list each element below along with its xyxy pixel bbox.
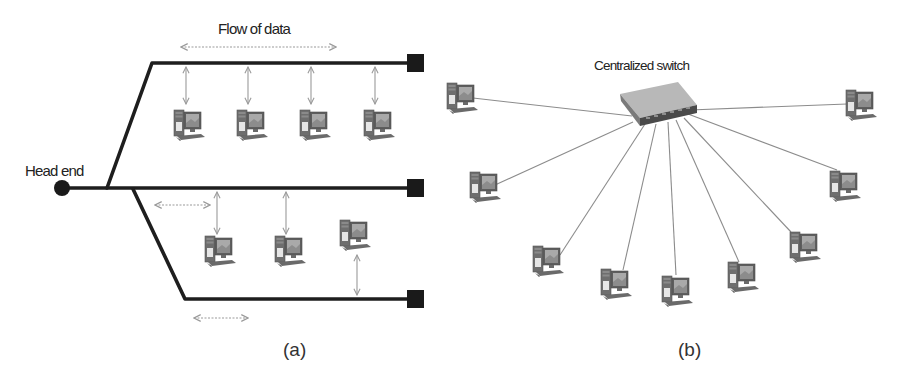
- flow-of-data-label: Flow of data: [218, 20, 290, 37]
- panel-b-star-topology: [447, 82, 877, 307]
- panel-a-bus-topology: [54, 47, 424, 318]
- pc-icon: [237, 110, 268, 141]
- pc-icon: [790, 232, 821, 263]
- pc-icon: [205, 236, 236, 267]
- network-topology-figure: Flow of data Head end (a) Centralized sw…: [0, 0, 899, 380]
- middle-terminator-icon: [407, 179, 424, 197]
- pc-icon: [470, 172, 501, 203]
- pc-icon: [364, 110, 395, 141]
- pc-icon: [447, 83, 478, 114]
- panel-a-caption: (a): [283, 339, 306, 361]
- pc-icon: [601, 269, 632, 300]
- bottom-terminator-icon: [407, 290, 424, 308]
- top-terminator-icon: [407, 54, 424, 72]
- pc-icon: [830, 171, 861, 202]
- head-end-label: Head end: [25, 162, 84, 179]
- pc-icon: [846, 90, 877, 121]
- pc-icon: [340, 220, 371, 251]
- figure-canvas: [0, 0, 899, 380]
- pc-icon: [275, 236, 306, 267]
- pc-icon: [533, 246, 564, 277]
- panel-b-caption: (b): [678, 339, 701, 361]
- pc-icon: [174, 110, 205, 141]
- pc-icon: [662, 276, 693, 307]
- pc-icon: [728, 262, 759, 293]
- pc-icon: [300, 110, 331, 141]
- head-end-node-icon: [54, 180, 70, 196]
- bus-lines: [62, 63, 408, 299]
- centralized-switch-label: Centralized switch: [594, 58, 689, 73]
